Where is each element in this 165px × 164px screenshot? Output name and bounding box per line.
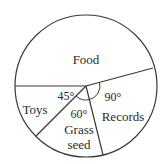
label-records: Records <box>102 109 145 124</box>
label-angle-records: 90° <box>105 90 122 104</box>
pie-chart: Food 45° 90° Toys 60° Records Grass seed <box>0 0 165 164</box>
label-grass: Grass <box>64 122 94 137</box>
label-angle-toys: 45° <box>58 89 75 103</box>
label-toys: Toys <box>22 102 47 117</box>
label-seed: seed <box>67 137 91 152</box>
label-angle-grass: 60° <box>71 107 88 121</box>
label-food: Food <box>73 52 100 67</box>
